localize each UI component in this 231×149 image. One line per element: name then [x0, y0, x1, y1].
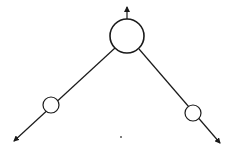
- center-dot: [120, 136, 122, 138]
- left-node-circle: [43, 97, 59, 113]
- vertex-circle: [110, 19, 144, 53]
- left-branch-line: [14, 48, 115, 141]
- right-branch-line: [139, 49, 220, 143]
- diagram-canvas: [0, 0, 231, 149]
- right-node-circle: [185, 105, 201, 121]
- vertex-diagram: [0, 0, 231, 149]
